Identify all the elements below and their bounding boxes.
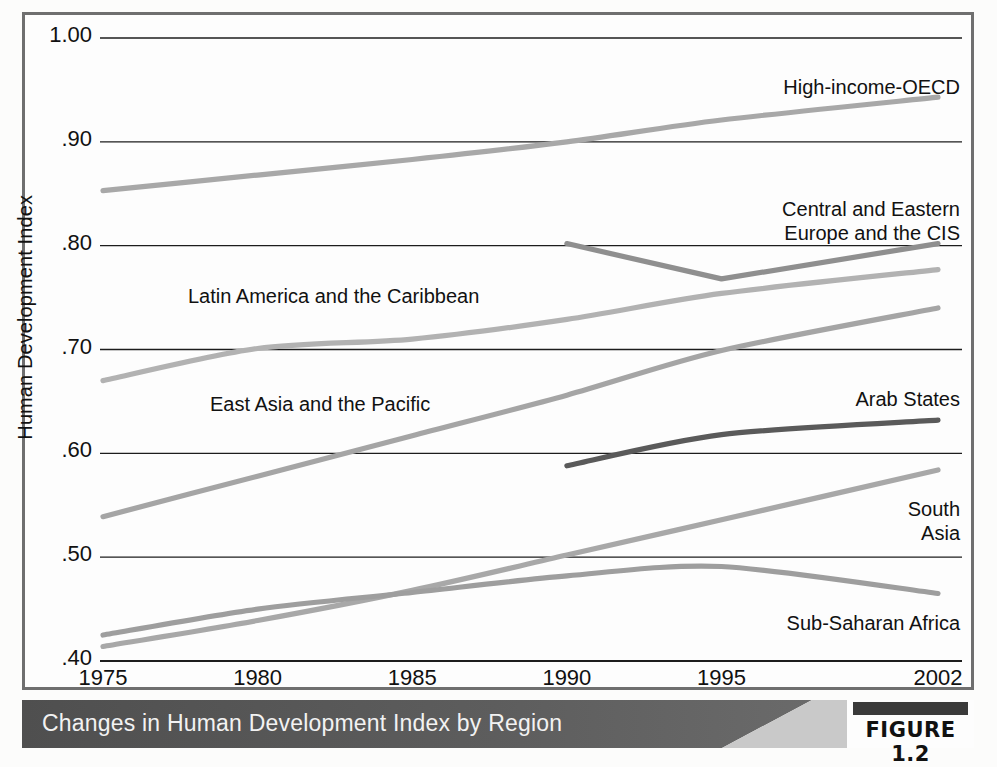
line-chart bbox=[0, 0, 997, 767]
series-label: Sub-Saharan Africa bbox=[0, 612, 960, 636]
series-label: South bbox=[0, 498, 960, 522]
series-label: Arab States bbox=[0, 388, 960, 412]
figure-badge-bar bbox=[853, 702, 968, 715]
figure-number: FIGURE 1.2 bbox=[847, 718, 974, 766]
y-axis-tick-label: .60 bbox=[22, 437, 92, 463]
x-axis-tick-label: 1980 bbox=[208, 665, 308, 691]
x-axis-tick-label: 1990 bbox=[517, 665, 617, 691]
series-line bbox=[567, 420, 938, 466]
series-label: Latin America and the Caribbean bbox=[188, 285, 479, 309]
series-label: High-income-OECD bbox=[0, 76, 960, 100]
y-axis-tick-label: .90 bbox=[22, 126, 92, 152]
x-axis-tick-label: 1975 bbox=[53, 665, 153, 691]
y-axis-tick-label: 1.00 bbox=[22, 22, 92, 48]
x-axis-tick-label: 1995 bbox=[672, 665, 772, 691]
series-label: Asia bbox=[0, 522, 960, 546]
series-line bbox=[103, 97, 938, 190]
x-axis-tick-label: 2002 bbox=[888, 665, 988, 691]
figure-caption: Changes in Human Development Index by Re… bbox=[42, 710, 562, 737]
series-label: Central and Eastern bbox=[0, 198, 960, 222]
series-label: Europe and the CIS bbox=[0, 222, 960, 246]
y-axis-tick-label: .70 bbox=[22, 334, 92, 360]
figure-page: Human Development Index 1.00.90.80.70.60… bbox=[0, 0, 997, 767]
x-axis-tick-label: 1985 bbox=[362, 665, 462, 691]
